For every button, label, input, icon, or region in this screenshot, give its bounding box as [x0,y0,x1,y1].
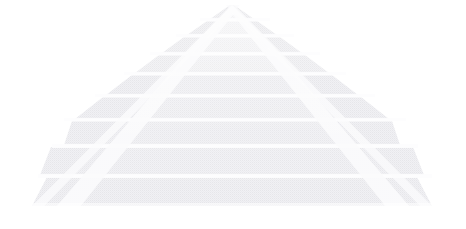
illustration-canvas: Faint light-grey step pyramid (ziggurat)… [0,0,466,229]
step-pyramid-icon [0,0,466,229]
ground-feather [0,203,466,229]
